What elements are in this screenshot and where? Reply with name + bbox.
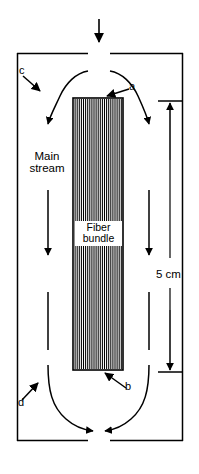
- fiber-bundle-label-line2: bundle: [75, 233, 122, 244]
- streamline-bottom-right: [105, 365, 149, 431]
- callout-leader-d: [22, 383, 38, 400]
- callout-leader-b: [105, 373, 126, 388]
- figure-canvas: Main stream Fiber bundle 5 cm a b c d: [0, 0, 199, 474]
- main-stream-label-line2: stream: [14, 162, 80, 174]
- callout-label-a: a: [129, 81, 135, 93]
- callout-leader-a: [107, 89, 129, 96]
- dimension-5cm: [158, 101, 182, 372]
- main-stream-label: Main stream: [14, 150, 80, 174]
- callout-label-b: b: [125, 381, 131, 393]
- streamline-bottom-left: [48, 365, 93, 431]
- dimension-label-5cm: 5 cm: [156, 268, 181, 280]
- fiber-bundle-label: Fiber bundle: [75, 221, 122, 246]
- main-stream-label-line1: Main: [14, 150, 80, 162]
- callout-label-d: d: [18, 397, 24, 409]
- streamlines-bottom: [48, 365, 149, 431]
- callout-leader-c: [23, 76, 40, 91]
- callout-label-c: c: [19, 65, 25, 77]
